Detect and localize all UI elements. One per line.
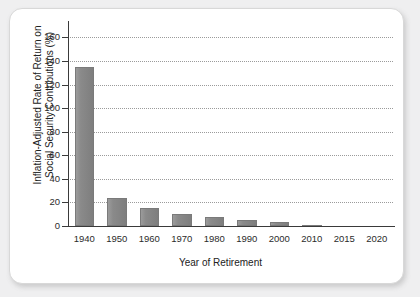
gridline — [68, 85, 393, 86]
gridline — [68, 37, 393, 38]
gridline — [68, 132, 393, 133]
y-axis-tick — [62, 37, 68, 38]
x-axis-title: Year of Retirement — [10, 257, 405, 268]
y-axis-title-line-2: Social Security Contributions (%) — [44, 5, 56, 205]
x-axis-title-text: Year of Retirement — [179, 257, 262, 268]
y-axis-title: Inflation-Adjusted Rate of Return on Soc… — [32, 5, 56, 205]
y-axis-tick — [62, 202, 68, 203]
y-axis-line — [68, 21, 69, 227]
y-axis-tick-label: 0 — [55, 221, 60, 231]
y-axis-tick — [62, 108, 68, 109]
gridline — [68, 155, 393, 156]
y-axis-tick — [62, 226, 68, 227]
gridline — [68, 108, 393, 109]
y-axis-tick — [62, 179, 68, 180]
x-axis-line — [68, 226, 395, 227]
y-axis-tick — [62, 85, 68, 86]
y-axis-tick — [62, 132, 68, 133]
gridline — [68, 61, 393, 62]
x-axis-tick-label: 2020 — [357, 233, 397, 244]
gridline — [68, 179, 393, 180]
chart-panel: 020406080100120140160 194019501960197019… — [9, 8, 404, 284]
bar — [140, 208, 160, 226]
plot-area — [68, 28, 393, 226]
y-axis-title-line-1: Inflation-Adjusted Rate of Return on — [32, 5, 44, 205]
y-axis-tick — [62, 155, 68, 156]
bar — [75, 67, 95, 226]
bar — [172, 214, 192, 226]
y-axis-tick — [62, 61, 68, 62]
bar — [107, 198, 127, 226]
